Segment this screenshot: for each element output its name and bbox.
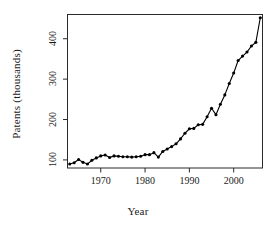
data-point <box>161 150 164 153</box>
data-point <box>245 51 248 54</box>
y-tick-label: 200 <box>47 99 58 139</box>
data-point <box>144 153 147 156</box>
data-point <box>126 155 129 158</box>
data-point <box>95 156 98 159</box>
y-axis-ticks <box>63 39 68 160</box>
data-point <box>77 158 80 161</box>
y-axis-title: Patents (thousands) <box>10 34 22 154</box>
data-point <box>121 155 124 158</box>
x-tick-label: 1990 <box>169 175 209 186</box>
x-tick-label: 1980 <box>125 175 165 186</box>
y-tick-label: 300 <box>47 59 58 99</box>
data-point <box>108 156 111 159</box>
data-point <box>223 93 226 96</box>
x-tick-label: 2000 <box>214 175 254 186</box>
y-tick-label: 100 <box>47 139 58 179</box>
data-point <box>219 103 222 106</box>
data-point <box>73 161 76 164</box>
data-point <box>241 55 244 58</box>
data-point <box>130 156 133 159</box>
data-point <box>81 161 84 164</box>
data-point <box>259 16 262 19</box>
data-point <box>170 145 173 148</box>
data-point <box>99 154 102 157</box>
series-line <box>70 18 261 164</box>
data-point <box>86 162 89 165</box>
data-point <box>188 127 191 130</box>
data-point <box>68 162 71 165</box>
data-point <box>104 154 107 157</box>
data-point <box>250 44 253 47</box>
data-point <box>232 72 235 75</box>
chart-figure: Patents (thousands) Year 197019801990200… <box>0 0 276 233</box>
series-markers <box>68 16 262 165</box>
data-point <box>206 115 209 118</box>
data-point <box>175 142 178 145</box>
data-point <box>90 159 93 162</box>
x-tick-label: 1970 <box>81 175 121 186</box>
data-point <box>183 132 186 135</box>
data-point <box>135 155 138 158</box>
data-point <box>210 107 213 110</box>
data-point <box>152 151 155 154</box>
data-point <box>192 127 195 130</box>
data-point <box>117 155 120 158</box>
plot-frame <box>68 15 263 169</box>
data-point <box>254 41 257 44</box>
data-point <box>179 137 182 140</box>
data-point <box>148 153 151 156</box>
data-point <box>139 155 142 158</box>
data-point <box>166 147 169 150</box>
data-point <box>237 59 240 62</box>
x-axis-title: Year <box>0 205 276 217</box>
data-point <box>201 123 204 126</box>
data-point <box>197 123 200 126</box>
data-point <box>112 154 115 157</box>
y-tick-label: 400 <box>47 18 58 58</box>
data-point <box>157 156 160 159</box>
data-point <box>214 113 217 116</box>
x-axis-ticks <box>101 168 234 173</box>
plot-canvas <box>0 0 276 233</box>
data-point <box>228 82 231 85</box>
